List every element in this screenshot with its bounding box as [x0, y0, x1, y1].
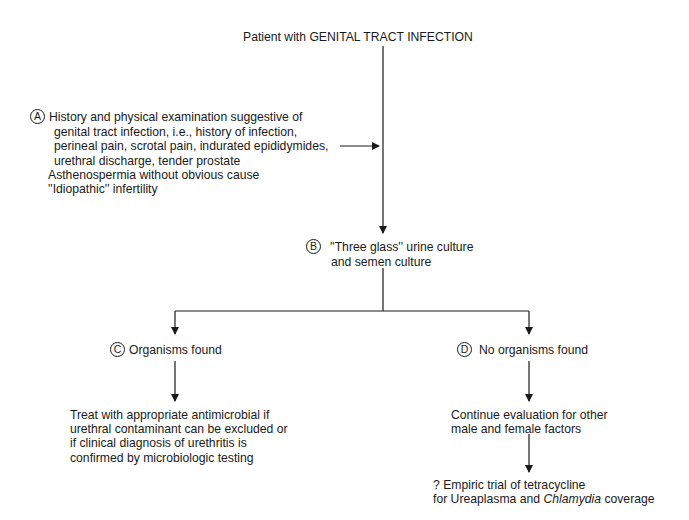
node-b-line-1: ''Three glass'' urine culture	[330, 240, 473, 254]
d-final-line-1: ? Empiric trial of tetracycline	[433, 478, 655, 492]
node-a-line-6: ''Idiopathic'' infertility	[30, 182, 328, 196]
c-action-line-1: Treat with appropriate antimicrobial if	[70, 408, 287, 422]
node-a-line-1: History and physical examination suggest…	[49, 110, 302, 124]
node-b-line-2: and semen culture	[306, 255, 473, 269]
d-final-suffix: coverage	[601, 492, 655, 506]
flowchart-title: Patient with GENITAL TRACT INFECTION	[243, 30, 473, 44]
d-final-italic-organism: Chlamydia	[543, 492, 601, 506]
node-d-final: ? Empiric trial of tetracycline for Urea…	[433, 478, 655, 506]
c-action-line-2: urethral contaminant can be excluded or	[70, 422, 287, 436]
node-c: COrganisms found	[110, 343, 222, 358]
node-a-line-3: perineal pain, scrotal pain, indurated e…	[30, 139, 328, 153]
marker-d-icon: D	[457, 342, 472, 357]
marker-b-icon: B	[306, 239, 321, 254]
node-a: AHistory and physical examination sugges…	[30, 110, 328, 196]
node-d: DNo organisms found	[457, 343, 588, 358]
c-action-line-4: confirmed by microbiologic testing	[70, 451, 287, 465]
d-final-prefix: for Ureaplasma and	[433, 492, 543, 506]
node-a-line-5: Asthenospermia without obvious cause	[30, 168, 328, 182]
node-a-line-4: urethral discharge, tender prostate	[30, 154, 328, 168]
node-b: B''Three glass'' urine culture and semen…	[306, 240, 473, 269]
d-final-line-2: for Ureaplasma and Chlamydia coverage	[433, 492, 655, 506]
node-c-label: Organisms found	[129, 343, 222, 357]
node-d-label: No organisms found	[479, 343, 588, 357]
c-action-line-3: if clinical diagnosis of urethritis is	[70, 436, 287, 450]
node-a-line-2: genital tract infection, i.e., history o…	[30, 125, 328, 139]
d-action-line-1: Continue evaluation for other	[451, 408, 608, 422]
marker-a-icon: A	[30, 109, 45, 124]
node-d-action: Continue evaluation for other male and f…	[451, 408, 608, 436]
d-action-line-2: male and female factors	[451, 422, 608, 436]
node-c-action: Treat with appropriate antimicrobial if …	[70, 408, 287, 465]
marker-c-icon: C	[110, 342, 125, 357]
